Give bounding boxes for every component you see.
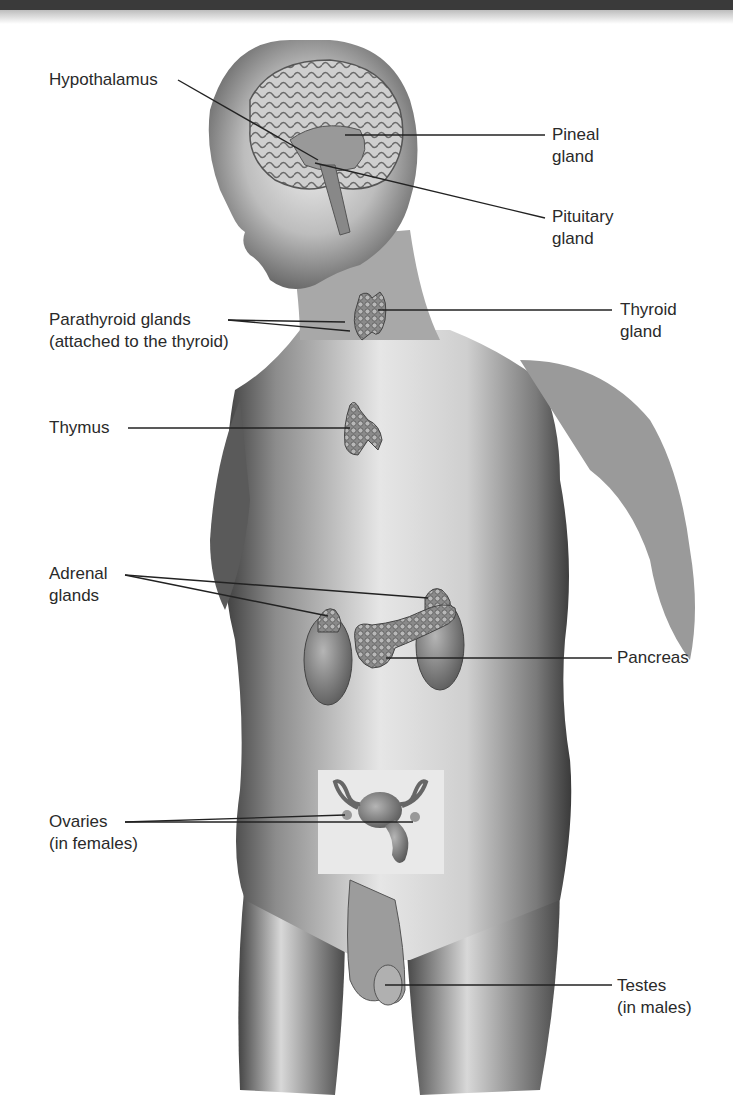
label-thyroid-gland: Thyroid gland (620, 299, 677, 343)
label-pancreas: Pancreas (617, 647, 689, 669)
label-hypothalamus: Hypothalamus (49, 69, 158, 91)
label-adrenal-glands: Adrenal glands (49, 563, 108, 607)
label-ovaries: Ovaries (in females) (49, 811, 138, 855)
label-testes: Testes (in males) (617, 975, 692, 1019)
label-thymus: Thymus (49, 417, 109, 439)
body-illustration (0, 0, 733, 1116)
label-parathyroid-glands: Parathyroid glands (attached to the thyr… (49, 309, 229, 353)
label-pituitary-gland: Pituitary gland (552, 206, 613, 250)
label-pineal-gland: Pineal gland (552, 124, 599, 168)
